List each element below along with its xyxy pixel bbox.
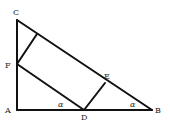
- label-b: B: [155, 106, 161, 115]
- geometry-diagram: C F A D E B α α: [0, 0, 170, 121]
- label-c: C: [13, 8, 19, 17]
- segment-f-to-cb: [17, 34, 37, 64]
- angle-alpha-b: α: [130, 100, 136, 109]
- angle-alpha-d: α: [58, 100, 64, 109]
- label-f: F: [5, 61, 11, 70]
- segment-fd: [17, 64, 84, 110]
- label-a: A: [4, 106, 11, 115]
- label-e: E: [104, 72, 110, 81]
- label-d: D: [81, 113, 87, 121]
- segment-de: [84, 83, 105, 110]
